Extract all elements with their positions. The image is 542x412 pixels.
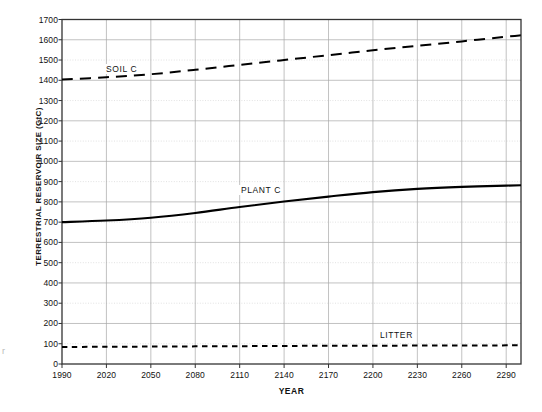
y-tick-label: 400 (2, 278, 58, 288)
vertical-gridlines (106, 20, 506, 365)
x-tick-label: 2050 (128, 370, 174, 380)
y-tick-label: 1600 (2, 35, 58, 45)
y-tick-label: 600 (2, 237, 58, 247)
x-tick-label: 2140 (261, 370, 307, 380)
y-tick-label: 1100 (2, 136, 58, 146)
x-tick-label: 2290 (483, 370, 529, 380)
y-tick-label: 1500 (2, 55, 58, 65)
plot-canvas (0, 0, 542, 412)
x-tick-label: 2260 (439, 370, 485, 380)
y-tick-label: 300 (2, 298, 58, 308)
y-tick-label: 700 (2, 217, 58, 227)
y-tick-label: 1400 (2, 75, 58, 85)
series-label-litter: LITTER (378, 330, 415, 340)
y-tick-label: 900 (2, 177, 58, 187)
chart-figure: TERRESTRIAL RESERVOIR SIZE (GtC) 0100200… (0, 0, 542, 412)
y-tick-label: 500 (2, 258, 58, 268)
y-tick-label: 200 (2, 318, 58, 328)
data-series-layer (62, 35, 521, 347)
y-tick-label: 1700 (2, 15, 58, 25)
x-tick-label: 2080 (172, 370, 218, 380)
y-tick-label: 0 (2, 359, 58, 369)
horizontal-minor-gridlines (62, 40, 521, 344)
y-tick-label: 1200 (2, 116, 58, 126)
series-label-soil-c: SOIL C (104, 64, 139, 74)
x-tick-label: 1990 (39, 370, 85, 380)
x-tick-label: 2110 (217, 370, 263, 380)
x-tick-label: 2170 (306, 370, 352, 380)
scan-artifact-speck: r (2, 347, 9, 356)
x-tick-label: 2200 (350, 370, 396, 380)
y-tick-label: 800 (2, 197, 58, 207)
x-tick-label: 2020 (83, 370, 129, 380)
y-tick-label: 1000 (2, 156, 58, 166)
x-tick-label: 2230 (394, 370, 440, 380)
x-axis-title: YEAR (62, 386, 521, 396)
series-label-plant-c: PLANT C (239, 185, 283, 195)
y-tick-label: 100 (2, 339, 58, 349)
y-tick-label: 1300 (2, 96, 58, 106)
